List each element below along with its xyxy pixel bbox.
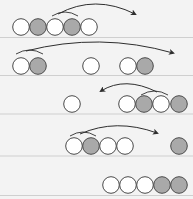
white-token-circle [47, 19, 64, 36]
gray-token-circle [83, 138, 100, 155]
white-token-circle [66, 138, 83, 155]
white-token-circle [13, 58, 30, 75]
gray-token-circle [30, 58, 47, 75]
gray-token-circle [64, 19, 81, 36]
gray-token-circle [30, 19, 47, 36]
gray-token-circle [171, 96, 188, 113]
white-token-circle [83, 58, 100, 75]
white-token-circle [119, 96, 136, 113]
white-token-circle [81, 19, 98, 36]
gray-token-circle [137, 58, 154, 75]
gray-token-circle [171, 177, 188, 194]
white-token-circle [120, 177, 137, 194]
white-token-circle [120, 58, 137, 75]
white-token-circle [100, 138, 117, 155]
token-move-diagram [0, 0, 193, 199]
white-token-circle [64, 96, 81, 113]
white-token-circle [137, 177, 154, 194]
gray-token-circle [171, 138, 188, 155]
white-token-circle [117, 138, 134, 155]
white-token-circle [103, 177, 120, 194]
gray-token-circle [154, 177, 171, 194]
gray-token-circle [136, 96, 153, 113]
white-token-circle [153, 96, 170, 113]
white-token-circle [13, 19, 30, 36]
